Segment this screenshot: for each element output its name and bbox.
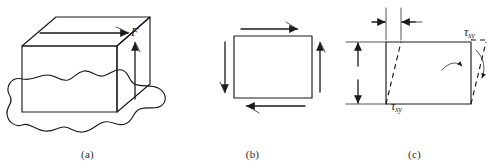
panel-a: F (a): [0, 0, 175, 168]
panel-a-drawing: [0, 0, 175, 168]
stress-element-rect: [234, 36, 312, 98]
force-label: F: [131, 26, 138, 38]
panel-b-drawing: [175, 0, 330, 168]
shear-arrow-right-flick: [320, 42, 325, 52]
shear-arrow-left-flick: [220, 82, 225, 93]
caption-a: (a): [0, 148, 175, 160]
force-arrow-flick: [116, 27, 129, 33]
caption-c: (c): [330, 148, 499, 160]
panel-b: τxy τxy (b): [175, 0, 330, 168]
rotation-arc-inner: [442, 63, 462, 70]
surface-blob: [7, 70, 165, 132]
deformed-edge-left: [386, 42, 401, 104]
caption-b: (b): [175, 148, 330, 160]
shear-arrow-top-flick: [286, 22, 298, 29]
shear-strain-arc: [476, 50, 484, 78]
shear-stress-figure: F (a) τxy: [0, 0, 499, 168]
panel-c-drawing: [330, 0, 499, 168]
shear-arrow-bottom-flick: [246, 106, 259, 113]
panel-c: Δx h γxy (c): [330, 0, 499, 168]
reaction-arrow-flick: [135, 42, 140, 52]
